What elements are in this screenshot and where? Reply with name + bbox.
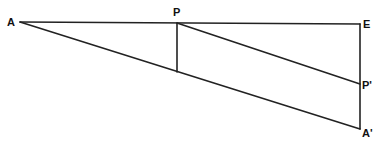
segment-A-E — [20, 22, 360, 24]
label-E: E — [363, 18, 370, 30]
label-P-prime: P' — [362, 79, 372, 91]
geometry-diagram: A P E P' A' — [0, 0, 381, 144]
segment-A-A-prime — [20, 22, 360, 129]
label-A: A — [7, 16, 15, 28]
segment-P-P-prime — [177, 23, 360, 84]
label-P: P — [173, 6, 180, 18]
label-A-prime: A' — [362, 127, 373, 139]
